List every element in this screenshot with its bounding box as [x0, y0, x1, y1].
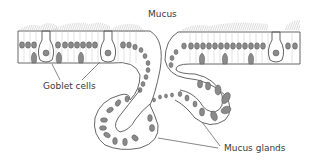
mucosa-diagram: Mucus Goblet cells Mucus glands: [0, 0, 315, 160]
goblet-cell: [268, 32, 283, 62]
goblet-cell: [38, 31, 53, 62]
mucus-layer: [18, 20, 300, 36]
epithelium-right: [165, 32, 300, 125]
goblet-cells-label: Goblet cells: [43, 81, 96, 91]
mucus-gland: [94, 90, 173, 149]
goblet-cell: [100, 31, 115, 62]
mucus-label: Mucus: [148, 9, 177, 19]
mucus-glands-label: Mucus glands: [224, 143, 286, 153]
epithelium-left: [18, 31, 161, 105]
